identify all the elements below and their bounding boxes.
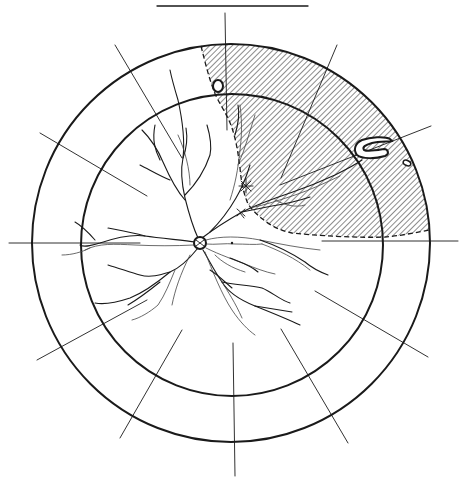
x-mark-icon (237, 209, 245, 218)
detachment-region (201, 0, 440, 237)
meridian-5 (281, 329, 348, 443)
star-mark-icon (239, 179, 253, 193)
meridian-6 (233, 343, 235, 476)
optic-disc (194, 237, 206, 249)
meridian-8 (37, 300, 147, 360)
fundus-diagram (0, 0, 463, 483)
round-hole-upper (213, 80, 223, 92)
fovea-dot (231, 242, 233, 244)
